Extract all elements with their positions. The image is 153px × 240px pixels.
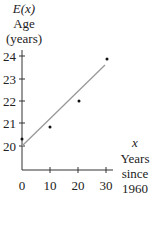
data-points	[21, 58, 109, 141]
y-tick-label: 21	[0, 116, 16, 131]
data-point	[21, 138, 24, 141]
x-axis-label-year: 1960	[116, 181, 153, 196]
x-axis-variable-label: x	[118, 135, 152, 150]
data-point	[78, 100, 81, 103]
y-tick-label: 23	[0, 72, 16, 87]
y-tick-label: 22	[0, 94, 16, 109]
x-axis-label-since: since	[116, 166, 153, 181]
y-tick-label: 20	[0, 139, 16, 154]
x-tick-label: 0	[14, 178, 30, 193]
x-axis-label-years: Years	[116, 151, 153, 166]
trend-line	[22, 65, 105, 146]
x-tick-label: 10	[40, 178, 60, 193]
x-tick-label: 20	[68, 178, 88, 193]
data-point	[49, 126, 52, 129]
data-point	[106, 58, 109, 61]
y-tick-label: 24	[0, 49, 16, 64]
x-tick-label: 30	[96, 178, 116, 193]
